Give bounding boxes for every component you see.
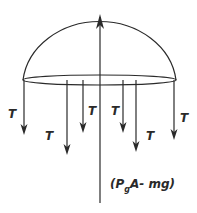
tension-label: T <box>111 104 120 118</box>
tension-label: T <box>45 129 54 143</box>
tension-label: T <box>88 104 97 118</box>
tension-label: T <box>146 129 155 143</box>
tension-label: T <box>180 111 189 125</box>
hemisphere-force-diagram: TTTTTT (PgA- mg) <box>0 0 197 213</box>
net-force-label: (PgA- mg) <box>110 177 175 194</box>
tension-label: T <box>8 107 17 121</box>
